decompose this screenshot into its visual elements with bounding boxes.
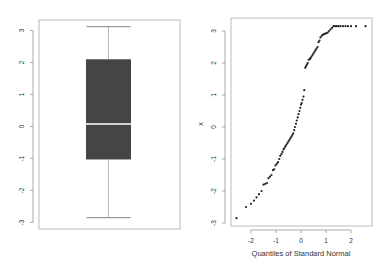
data-point [295,123,297,125]
data-point [280,153,282,155]
data-point [316,46,318,48]
data-point [297,116,299,118]
x-tick-label: 2 [349,237,353,244]
data-point [267,177,269,179]
data-point [364,25,366,27]
data-point [270,174,272,176]
y-tick-label: 3 [18,28,25,32]
y-tick-label: 0 [18,124,25,128]
y-tick-label: 2 [18,60,25,64]
data-point [293,129,295,131]
y-tick-label: -3 [210,220,217,226]
y-tick-label: -1 [210,156,217,162]
boxplot-panel: -3-2-10123 [18,20,180,229]
qqplot-x-axis: -2-1012 [248,230,353,244]
qqplot-frame [231,18,372,226]
data-point [355,25,357,27]
data-point [294,126,296,128]
data-point [255,196,257,198]
data-point [298,110,300,112]
data-point [299,107,301,109]
x-tick-label: 0 [299,237,303,244]
data-point [297,113,299,115]
data-point [266,182,268,184]
data-point [339,25,341,27]
y-tick-label: 0 [210,125,217,129]
data-point [260,190,262,192]
boxplot-y-axis: -3-2-10123 [18,28,33,225]
qqplot-points [235,25,366,219]
x-tick-label: -1 [273,237,279,244]
data-point [331,27,333,29]
data-point [245,206,247,208]
data-point [347,25,349,27]
y-tick-label: 2 [210,61,217,65]
data-point [273,168,275,170]
data-point [328,30,330,32]
qqplot-y-axis: -3-2-10123 [210,29,225,226]
data-point [307,62,309,64]
data-point [344,25,346,27]
qqplot-x-label: Quantiles of Standard Normal [252,249,351,258]
qqplot-panel: -3-2-10123 -2-1012 Quantiles of Standard… [196,18,372,258]
y-tick-label: 1 [18,92,25,96]
x-tick-label: 1 [324,237,328,244]
data-point [342,25,344,27]
data-point [292,132,294,134]
y-tick-label: -3 [18,219,25,225]
data-point [253,200,255,202]
data-point [250,203,252,205]
y-tick-label: -2 [18,187,25,193]
data-point [296,120,298,122]
y-tick-label: -1 [18,155,25,161]
box [86,59,131,159]
x-tick-label: -2 [248,237,254,244]
data-point [277,161,279,163]
data-point [337,25,339,27]
y-tick-label: -2 [210,188,217,194]
boxplot-body [86,27,131,218]
data-point [350,25,352,27]
data-point [301,102,303,104]
data-point [301,99,303,101]
data-point [281,151,283,153]
data-point [269,176,271,178]
data-point [278,158,280,160]
data-point [318,40,320,42]
data-point [258,193,260,195]
data-point [302,96,304,98]
y-tick-label: 1 [210,93,217,97]
data-point [303,89,305,91]
qqplot-y-label: x [196,122,205,126]
data-point [329,28,331,30]
y-tick-label: 3 [210,29,217,33]
figure: -3-2-10123 -3-2-10123 -2-1012 Quantiles … [0,0,391,275]
data-point [235,217,237,219]
